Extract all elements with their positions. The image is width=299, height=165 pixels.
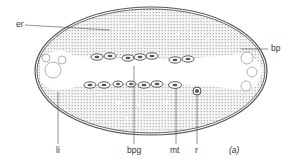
label-bp: bp xyxy=(271,44,280,53)
diagram-figure: er bp li bpg mt r (a) xyxy=(0,0,299,165)
label-er: er xyxy=(16,20,24,29)
panel-label: (a) xyxy=(229,146,239,155)
label-r: r xyxy=(195,146,198,155)
label-mt: mt xyxy=(170,146,179,155)
cross-section-illustration xyxy=(0,0,299,165)
label-li: li xyxy=(56,146,60,155)
label-bpg: bpg xyxy=(127,146,141,155)
round-body-r xyxy=(193,87,201,95)
